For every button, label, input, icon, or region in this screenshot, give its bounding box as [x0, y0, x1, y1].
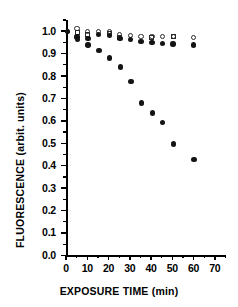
data-point-filled-circle: [85, 42, 90, 47]
y-axis-tick-label: 1.0: [26, 25, 56, 37]
x-axis-minor-tick: [182, 255, 183, 258]
y-axis-tick-label: 0.0: [26, 249, 56, 261]
y-axis-minor-tick: [63, 42, 66, 43]
fluorescence-decay-chart: FLUORESCENCE (arbit. units) EXPOSURE TIM…: [0, 0, 238, 307]
data-point-filled-circle: [160, 120, 165, 125]
data-point-filled-circle: [96, 32, 101, 37]
x-axis-tick: [172, 255, 174, 260]
data-point-filled-circle: [107, 55, 112, 60]
y-axis-tick: [61, 53, 66, 55]
data-point-filled-circle: [160, 41, 165, 46]
x-axis-minor-tick: [161, 255, 162, 258]
y-axis-minor-tick: [63, 176, 66, 177]
data-point-filled-circle: [138, 39, 143, 44]
data-point-filled-circle: [65, 29, 70, 34]
x-axis-tick: [150, 255, 152, 260]
x-axis-tick: [214, 255, 216, 260]
y-axis-tick-label: 0.7: [26, 92, 56, 104]
x-axis-tick-label: 70: [203, 262, 227, 274]
x-axis-tick: [129, 255, 131, 260]
y-axis-tick: [61, 232, 66, 234]
x-axis-tick: [193, 255, 195, 260]
data-point-open-circle: [138, 34, 143, 39]
y-axis-minor-tick: [63, 199, 66, 200]
data-point-open-square: [171, 34, 176, 39]
y-axis-tick: [61, 120, 66, 122]
data-point-filled-circle: [118, 64, 123, 69]
x-axis-tick: [108, 255, 110, 260]
y-axis-minor-tick: [63, 131, 66, 132]
data-point-filled-circle: [171, 141, 176, 146]
data-point-filled-circle: [170, 41, 175, 46]
data-point-filled-circle: [191, 42, 196, 47]
data-point-filled-circle: [96, 48, 101, 53]
x-axis-minor-tick: [225, 255, 226, 258]
y-axis-tick: [61, 75, 66, 77]
x-axis-minor-tick: [204, 255, 205, 258]
y-axis-minor-tick: [63, 244, 66, 245]
y-axis-tick-label: 0.8: [26, 70, 56, 82]
y-axis-tick-label: 0.4: [26, 159, 56, 171]
data-point-open-circle: [191, 35, 196, 40]
y-axis-minor-tick: [63, 19, 66, 20]
y-axis-tick-label: 0.3: [26, 182, 56, 194]
y-axis-tick: [61, 165, 66, 167]
data-point-open-circle: [160, 34, 165, 39]
y-axis-tick-label: 0.2: [26, 204, 56, 216]
y-axis-tick-label: 0.5: [26, 137, 56, 149]
data-point-filled-circle: [128, 37, 133, 42]
data-point-filled-circle: [75, 37, 80, 42]
x-axis-title: EXPOSURE TIME (min): [0, 285, 238, 297]
y-axis-tick-label: 0.1: [26, 226, 56, 238]
y-axis-tick: [61, 210, 66, 212]
y-axis-tick: [61, 187, 66, 189]
x-axis-tick: [87, 255, 89, 260]
y-axis-title: FLUORESCENCE (arbit. units): [14, 92, 26, 248]
x-axis-minor-tick: [97, 255, 98, 258]
data-point-filled-circle: [117, 36, 122, 41]
y-axis-tick-label: 0.6: [26, 114, 56, 126]
data-point-filled-circle: [85, 36, 90, 41]
plot-area: [66, 20, 225, 256]
x-axis-minor-tick: [119, 255, 120, 258]
data-point-filled-circle: [107, 33, 112, 38]
x-axis-tick: [65, 255, 67, 260]
data-point-filled-circle: [150, 110, 155, 115]
y-axis-minor-tick: [63, 221, 66, 222]
x-axis-minor-tick: [140, 255, 141, 258]
y-axis-tick: [61, 98, 66, 100]
y-axis-minor-tick: [63, 87, 66, 88]
y-axis-minor-tick: [63, 109, 66, 110]
x-axis-minor-tick: [76, 255, 77, 258]
y-axis-tick-label: 0.9: [26, 47, 56, 59]
y-axis-minor-tick: [63, 64, 66, 65]
y-axis-minor-tick: [63, 154, 66, 155]
data-point-filled-circle: [191, 157, 196, 162]
data-point-filled-circle: [139, 100, 144, 105]
y-axis-tick: [61, 143, 66, 145]
data-point-filled-circle: [149, 40, 154, 45]
data-point-filled-circle: [128, 79, 133, 84]
